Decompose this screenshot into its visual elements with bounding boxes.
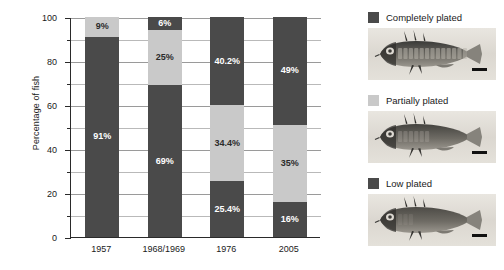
legend-entry-header: Low plated	[368, 176, 504, 190]
bar-segment[interactable]: 25.4%	[210, 181, 244, 237]
legend-entry-header: Partially plated	[368, 93, 504, 107]
legend-entry[interactable]: Partially plated	[368, 93, 504, 163]
bar-segment[interactable]: 49%	[273, 17, 307, 125]
legend-label: Low plated	[386, 178, 432, 189]
x-axis-tick-label: 2005	[279, 244, 299, 254]
bar-segment[interactable]: 9%	[85, 17, 119, 37]
bar[interactable]: 91%9%	[85, 17, 119, 237]
y-axis-tick-minor	[67, 128, 71, 129]
bar-segment-label: 6%	[158, 19, 171, 28]
bar-segment-label: 91%	[93, 132, 111, 141]
y-axis-tick-label: 20	[47, 189, 57, 199]
bar[interactable]: 25.4%34.4%40.2%	[210, 17, 244, 237]
y-axis-tick-label: 80	[47, 57, 57, 67]
bar-segment[interactable]: 34.4%	[210, 105, 244, 181]
legend: Completely platedPartially platedLow pla…	[368, 10, 504, 266]
legend-swatch-icon	[368, 95, 379, 106]
x-axis-tick-label: 1968/1969	[142, 244, 185, 254]
bar-segment-label: 40.2%	[214, 57, 240, 66]
bar-segment-label: 34.4%	[214, 139, 240, 148]
bar-segment[interactable]: 6%	[148, 17, 182, 30]
bar-segment[interactable]: 25%	[148, 30, 182, 85]
bar-segment[interactable]: 16%	[273, 202, 307, 237]
bar-segment[interactable]: 35%	[273, 125, 307, 202]
bar-segment-label: 9%	[96, 22, 109, 31]
scale-bar	[472, 234, 487, 237]
y-axis-tick-major	[65, 62, 71, 63]
legend-label: Partially plated	[386, 95, 448, 106]
bar-segment-label: 25.4%	[214, 205, 240, 214]
legend-label: Completely plated	[386, 12, 462, 23]
bar-segment[interactable]: 40.2%	[210, 17, 244, 105]
y-axis-tick-minor	[67, 40, 71, 41]
y-axis-tick-major	[65, 194, 71, 195]
y-axis-tick-label: 0	[52, 233, 57, 243]
y-axis-tick-minor	[67, 216, 71, 217]
bar-segment[interactable]: 91%	[85, 37, 119, 237]
fish-specimen-photo	[368, 194, 496, 246]
plot-area: 02040608010091%9%69%25%6%25.4%34.4%40.2%…	[70, 18, 320, 238]
bar-segment-label: 16%	[281, 215, 299, 224]
bar[interactable]: 69%25%6%	[148, 17, 182, 237]
bar-segment-label: 35%	[281, 159, 299, 168]
bar-segment[interactable]: 69%	[148, 85, 182, 237]
bar-segment-label: 25%	[156, 53, 174, 62]
stacked-bar-chart: Percentage of fish 02040608010091%9%69%2…	[0, 0, 352, 270]
scale-bar	[472, 68, 487, 71]
y-axis-tick-label: 40	[47, 145, 57, 155]
bar[interactable]: 16%35%49%	[273, 17, 307, 237]
y-axis-tick-minor	[67, 172, 71, 173]
legend-entry[interactable]: Low plated	[368, 176, 504, 246]
figure-root: Percentage of fish 02040608010091%9%69%2…	[0, 0, 504, 270]
x-axis-tick-label: 1976	[216, 244, 236, 254]
y-axis-title: Percentage of fish	[31, 33, 41, 193]
x-axis-tick-label: 1957	[91, 244, 111, 254]
y-axis-tick-label: 60	[47, 101, 57, 111]
bar-segment-label: 69%	[156, 157, 174, 166]
legend-swatch-icon	[368, 12, 379, 23]
legend-swatch-icon	[368, 178, 379, 189]
fish-specimen-photo	[368, 28, 496, 80]
y-axis-tick-major	[65, 18, 71, 19]
bar-segment-label: 49%	[281, 66, 299, 75]
legend-entry[interactable]: Completely plated	[368, 10, 504, 80]
y-axis-tick-minor	[67, 84, 71, 85]
y-axis-tick-major	[65, 150, 71, 151]
legend-entry-header: Completely plated	[368, 10, 504, 24]
fish-specimen-photo	[368, 111, 496, 163]
scale-bar	[472, 151, 487, 154]
y-axis-tick-label: 100	[42, 13, 57, 23]
y-axis-tick-major	[65, 106, 71, 107]
y-axis-tick-major	[65, 238, 71, 239]
